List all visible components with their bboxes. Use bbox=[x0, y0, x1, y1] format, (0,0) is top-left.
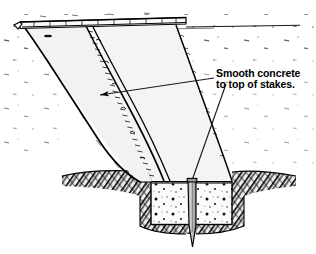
slab-surface-mark bbox=[44, 35, 52, 38]
footing-detail-drawing: Smooth concrete to top of stakes. bbox=[0, 0, 316, 254]
callout-label: Smooth concrete to top of stakes. bbox=[216, 67, 301, 90]
illustration-root: Smooth concrete to top of stakes. bbox=[0, 0, 316, 254]
callout-line-2: to top of stakes. bbox=[216, 78, 295, 90]
